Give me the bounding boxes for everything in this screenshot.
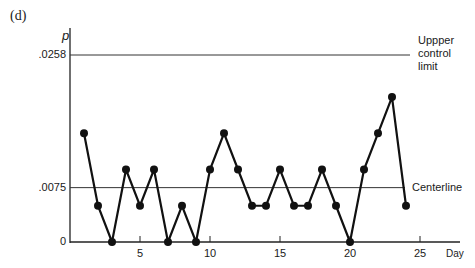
y-tick-label: 0: [60, 235, 66, 247]
ucl-annotation: limit: [418, 60, 438, 72]
data-point: [206, 166, 214, 174]
x-tick-label: 5: [132, 247, 148, 259]
data-point: [346, 238, 354, 246]
data-point: [318, 166, 326, 174]
ucl-annotation: control: [418, 47, 451, 59]
data-point: [388, 93, 396, 101]
y-tick-label: .0075: [38, 181, 66, 193]
x-tick-label: 10: [202, 247, 218, 259]
x-axis-label: Day: [446, 248, 464, 260]
data-point: [276, 166, 284, 174]
data-point: [262, 202, 270, 210]
data-point: [178, 202, 186, 210]
data-point: [122, 166, 130, 174]
data-point: [164, 238, 172, 246]
data-point: [402, 202, 410, 210]
data-point: [150, 166, 158, 174]
y-tick-label: .0258: [38, 48, 66, 60]
x-tick-label: 20: [342, 247, 358, 259]
data-point: [360, 166, 368, 174]
data-point: [304, 202, 312, 210]
x-tick-label: 15: [272, 247, 288, 259]
data-point: [108, 238, 116, 246]
data-point: [192, 238, 200, 246]
data-point: [136, 202, 144, 210]
control-chart: [0, 0, 475, 268]
data-point: [248, 202, 256, 210]
data-point: [332, 202, 340, 210]
data-point: [374, 129, 382, 137]
data-point: [220, 129, 228, 137]
data-point: [94, 202, 102, 210]
centerline-annotation: Centerline: [412, 181, 462, 193]
ucl-annotation: Uppper: [418, 34, 454, 46]
data-point: [290, 202, 298, 210]
data-point: [80, 129, 88, 137]
data-line: [84, 97, 406, 242]
data-point: [234, 166, 242, 174]
x-tick-label: 25: [412, 247, 428, 259]
